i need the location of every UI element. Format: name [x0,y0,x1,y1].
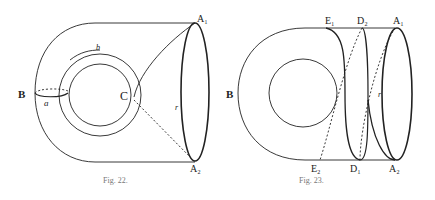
fig23-label-e2: E₂ [311,163,321,174]
fig22-label-r: r [175,103,179,112]
fig22-label-c: C [120,89,128,103]
fig23-label-d1: D₁ [350,163,361,174]
fig22-label-b-small: b [96,43,100,52]
figures-canvas: A₁ A₂ B C a b r E₁ D₂ A₁ B E₂ D₁ A₂ r [0,0,435,200]
fig22-caption: Fig. 22. [103,176,128,185]
fig23-label-a1: A₁ [393,15,404,26]
fig23-diagram [238,28,412,160]
fig22-label-a: a [44,98,49,108]
fig23-label-e1: E₁ [325,15,335,26]
fig23-caption: Fig. 23. [299,176,324,185]
fig23-label-b: B [226,88,234,100]
fig23-label-a2: A₂ [389,163,400,174]
fig23-label-d2: D₂ [357,15,368,26]
fig22-label-b: B [18,88,26,100]
fig22-label-a1: A₁ [197,13,208,24]
fig22-label-a2: A₂ [190,163,201,174]
